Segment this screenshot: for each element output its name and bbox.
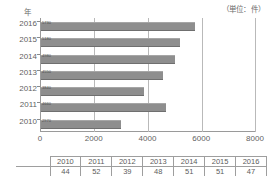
y-axis-tick-label: 2010 [19,117,37,126]
x-axis-tick-label: 4000 [139,134,157,143]
bar-rows: 2016573020155180201449802013455020123840… [40,18,256,132]
data-table: 2010201120122013201420152016 44523948515… [16,156,267,176]
bar-value-label: 5180 [42,36,51,41]
table-cell [16,167,50,177]
table-body: 44523948515147 [16,167,267,177]
bar-value-label: 4980 [42,53,51,58]
y-axis-tick-mark [37,54,40,55]
bar-row: 20165730 [40,18,256,34]
y-axis-tick-mark [37,21,40,22]
bar-row: 20155180 [40,34,256,50]
bar-row: 20134550 [40,67,256,83]
y-axis-tick-label: 2016 [19,19,37,28]
x-axis-tick-label: 0 [38,134,42,143]
chart-page: （単位：件） 年 2016573020155180201449802013455… [0,0,269,176]
y-axis-tick-label: 2011 [20,100,37,109]
table-header-row: 2010201120122013201420152016 [16,157,267,167]
y-axis-tick-label: 2015 [19,35,37,44]
table-cell: 52 [81,167,112,177]
y-axis-tick-label: 2014 [19,52,37,61]
bar-row: 20144980 [40,51,256,67]
table-header-cell: 2010 [50,157,81,167]
y-axis-caption: 年 [24,6,31,17]
table-cell: 44 [50,167,81,177]
bar [41,55,175,64]
bar-value-label: 4660 [42,101,51,106]
bar-value-label: 3840 [42,85,51,90]
bar-value-label: 2970 [42,118,51,123]
table-cell: 47 [236,167,267,177]
table-header-cell: 2015 [205,157,236,167]
x-axis-tick-label: 6000 [192,134,210,143]
y-axis-tick-label: 2013 [19,68,37,77]
table-header-cell: 2014 [174,157,205,167]
bar [41,22,195,31]
y-axis-tick-label: 2012 [19,84,37,93]
table-cell: 48 [143,167,174,177]
bar [41,38,180,47]
y-axis-tick-mark [37,102,40,103]
bar-value-label: 5730 [42,20,51,25]
bar-row: 20123840 [40,83,256,99]
x-axis-tick-label: 2000 [85,134,103,143]
y-axis-tick-mark [37,119,40,120]
bar [41,120,121,129]
plot-area: 2016573020155180201449802013455020123840… [40,18,256,132]
x-axis-tick-labels: 02000400060008000 [40,134,256,146]
table-header-cell: 2016 [236,157,267,167]
bar [41,103,166,112]
bar-row: 20114660 [40,99,256,115]
unit-label: （単位：件） [222,3,265,14]
y-axis-tick-mark [37,37,40,38]
table-row: 44523948515147 [16,167,267,177]
bar-value-label: 4550 [42,69,51,74]
table-cell: 39 [112,167,143,177]
table-cell: 51 [205,167,236,177]
bar-row: 20102970 [40,116,256,132]
y-axis-tick-mark [37,70,40,71]
x-axis-tick-label: 8000 [246,134,264,143]
bar [41,87,144,96]
table-cell: 51 [174,167,205,177]
table-header-cell: 2012 [112,157,143,167]
table-header-cell: 2013 [143,157,174,167]
table-corner-cell [16,157,50,167]
bar [41,71,163,80]
y-axis-tick-mark [37,86,40,87]
table-header-cell: 2011 [81,157,112,167]
